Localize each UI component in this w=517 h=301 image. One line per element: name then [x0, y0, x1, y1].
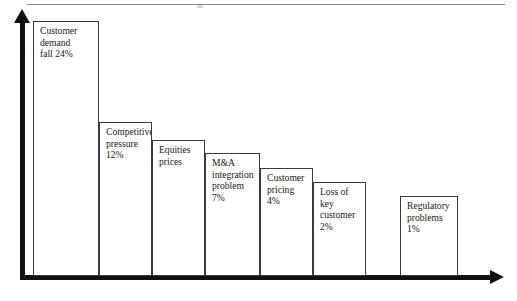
bar-6-label: Loss of key customer 2% [320, 186, 362, 232]
bar-3: Equities prices [152, 140, 205, 276]
bar-7: Regulatory problems 1% [400, 196, 458, 276]
bar-2-label: Competitive pressure 12% [106, 126, 148, 161]
chart-page: Customer demand fall 24% Competitive pre… [0, 0, 517, 301]
y-axis-arrowhead-icon [14, 9, 30, 23]
bar-6: Loss of key customer 2% [313, 182, 366, 276]
bar-2: Competitive pressure 12% [99, 122, 152, 276]
bar-5: Customer pricing 4% [260, 168, 313, 276]
bar-4: M&A integration problem 7% [205, 153, 260, 276]
bar-7-label: Regulatory problems 1% [407, 200, 454, 235]
bar-1: Customer demand fall 24% [33, 21, 99, 276]
bar-5-label: Customer pricing 4% [267, 172, 309, 207]
bar-3-label: Equities prices [159, 144, 201, 167]
plot-area: Customer demand fall 24% Competitive pre… [0, 0, 517, 301]
bar-4-label: M&A integration problem 7% [212, 157, 256, 203]
y-axis-line [20, 20, 25, 279]
x-axis-arrowhead-icon [490, 270, 504, 284]
bar-1-label: Customer demand fall 24% [40, 25, 95, 60]
